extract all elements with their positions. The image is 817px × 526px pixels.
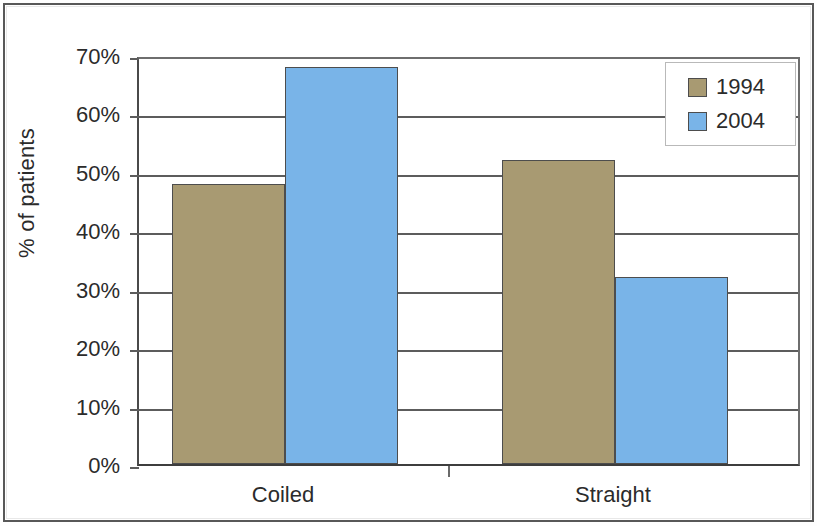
y-axis-tick-mark	[130, 292, 139, 294]
chart-legend: 19942004	[665, 62, 796, 146]
y-axis-tick-label: 70%	[34, 44, 120, 70]
y-axis-tick-label: 10%	[34, 395, 120, 421]
legend-item-2004: 2004	[688, 104, 795, 138]
y-axis-tick-label: 20%	[34, 336, 120, 362]
y-axis-tick-mark	[130, 233, 139, 235]
x-axis-group-separator-tick	[448, 466, 450, 477]
x-axis-category-label: Coiled	[252, 482, 314, 508]
y-axis-tick-label: 40%	[34, 219, 120, 245]
legend-label: 2004	[716, 110, 765, 132]
y-axis-tick-labels: 0%10%20%30%40%50%60%70%	[36, 57, 128, 466]
bar-coiled-1994	[172, 184, 285, 464]
y-axis-tick-label: 0%	[34, 453, 120, 479]
x-axis-category-label: Straight	[575, 482, 651, 508]
legend-swatch-icon	[688, 112, 707, 131]
y-axis-tick-mark	[130, 175, 139, 177]
legend-swatch-icon	[688, 78, 707, 97]
legend-item-1994: 1994	[688, 70, 795, 104]
bar-straight-2004	[615, 277, 728, 464]
y-axis-tick-label: 30%	[34, 278, 120, 304]
chart-figure: % of patients 0%10%20%30%40%50%60%70% Co…	[0, 0, 817, 526]
y-axis-tick-label: 50%	[34, 161, 120, 187]
y-axis-tick-label: 60%	[34, 102, 120, 128]
y-axis-tick-mark	[130, 58, 139, 60]
legend-label: 1994	[716, 76, 765, 98]
y-axis-tick-mark	[130, 467, 139, 469]
bar-coiled-2004	[285, 67, 398, 464]
y-axis-tick-mark	[130, 350, 139, 352]
bar-straight-1994	[502, 160, 615, 464]
y-axis-tick-mark	[130, 116, 139, 118]
y-axis-tick-mark	[130, 409, 139, 411]
